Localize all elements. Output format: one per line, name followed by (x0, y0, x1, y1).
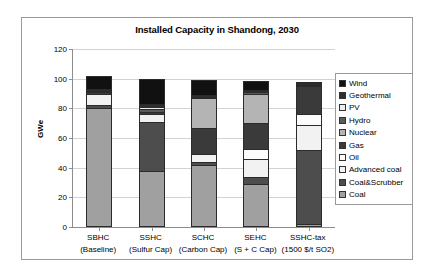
legend-swatch-icon (339, 92, 346, 99)
x-axis-label-line2: (S + C Cap) (229, 244, 281, 256)
x-tick-mark (309, 227, 310, 231)
bar-slot (283, 49, 335, 227)
x-axis-label-line2: (Baseline) (72, 244, 124, 256)
legend-label: Wind (349, 79, 367, 88)
x-axis-label-line1: SSHC (139, 233, 161, 242)
stacked-bar[interactable] (139, 79, 165, 227)
y-tick-label: 20 (58, 193, 67, 202)
y-tick-label: 100 (54, 74, 67, 83)
stacked-bar[interactable] (243, 81, 269, 227)
legend-swatch-icon (339, 104, 346, 111)
stacked-bar[interactable] (86, 76, 112, 227)
legend-label: Nuclear (349, 128, 377, 137)
bar-segment-nuclear[interactable] (243, 94, 269, 124)
bar-segment-coal[interactable] (191, 165, 217, 227)
bar-segment-wind[interactable] (86, 76, 112, 89)
bar-segment-advanced-coal[interactable] (139, 114, 165, 121)
legend-item[interactable]: Coal (339, 189, 410, 201)
y-tick-label: 120 (54, 45, 67, 54)
bar-segment-coal[interactable] (243, 184, 269, 227)
y-tick-label: 0 (63, 223, 67, 232)
bar-slot (73, 49, 125, 227)
bar-segment-advanced-coal[interactable] (243, 159, 269, 177)
y-tick-label: 40 (58, 163, 67, 172)
bar-segment-wind[interactable] (139, 79, 165, 104)
stacked-bar[interactable] (296, 82, 322, 227)
legend-swatch-icon (339, 80, 346, 87)
legend-item[interactable]: Nuclear (339, 127, 410, 139)
x-axis-label: SEHC(S + C Cap) (229, 232, 281, 255)
bar-segment-coal-scrubber[interactable] (243, 177, 269, 184)
bar-segment-advanced-coal[interactable] (86, 94, 112, 104)
chart-container: Installed Capacity in Shandong, 2030 GWe… (21, 17, 413, 260)
x-axis-label-line2: (1500 $/t SO2) (282, 244, 334, 256)
bar-segment-wind[interactable] (243, 81, 269, 90)
x-axis-label-line1: SSHC-tax (290, 233, 326, 242)
legend-label: Geothermal (349, 91, 391, 100)
x-axis-label: SCHC(Carbon Cap) (177, 232, 229, 255)
legend-item[interactable]: Oil (339, 151, 410, 163)
x-axis-label-line1: SCHC (192, 233, 215, 242)
legend-swatch-icon (339, 142, 346, 149)
x-axis-label-line2: (Carbon Cap) (177, 244, 229, 256)
bar-segment-gas[interactable] (243, 123, 269, 149)
bar-segment-oil[interactable] (296, 114, 322, 124)
legend-item[interactable]: Geothermal (339, 89, 410, 101)
legend-swatch-icon (339, 179, 346, 186)
x-tick-mark (99, 227, 100, 231)
legend-swatch-icon (339, 154, 346, 161)
legend-item[interactable]: Hydro (339, 114, 410, 126)
legend-swatch-icon (339, 191, 346, 198)
x-axis-label-line1: SEHC (244, 233, 266, 242)
bar-segment-gas[interactable] (296, 86, 322, 114)
bar-slot (125, 49, 177, 227)
y-axis-title: GWe (36, 120, 45, 138)
y-tick-label: 60 (58, 134, 67, 143)
x-tick-mark (204, 227, 205, 231)
x-tick-mark (256, 227, 257, 231)
legend-label: Advanced coal (349, 165, 401, 174)
x-axis-label-line2: (Sulfur Cap) (124, 244, 176, 256)
legend-item[interactable]: Gas (339, 139, 410, 151)
bar-segment-coal[interactable] (86, 108, 112, 227)
legend-label: Oil (349, 153, 359, 162)
bar-segment-oil[interactable] (243, 149, 269, 159)
x-axis-label: SSHC-tax(1500 $/t SO2) (282, 232, 334, 255)
legend-label: Hydro (349, 116, 370, 125)
legend-item[interactable]: PV (339, 102, 410, 114)
legend-swatch-icon (339, 129, 346, 136)
legend-label: Gas (349, 141, 364, 150)
y-tick-mark (69, 227, 73, 228)
legend-item[interactable]: Advanced coal (339, 164, 410, 176)
legend-label: Coal&Scrubber (349, 178, 403, 187)
x-axis-label: SBHC(Baseline) (72, 232, 124, 255)
legend-item[interactable]: Coal&Scrubber (339, 176, 410, 188)
bar-segment-wind[interactable] (191, 80, 217, 95)
bar-segment-coal[interactable] (139, 171, 165, 227)
bar-segment-coal-scrubber[interactable] (296, 150, 322, 224)
bar-slot (230, 49, 282, 227)
x-axis-label: SSHC(Sulfur Cap) (124, 232, 176, 255)
bar-segment-advanced-coal[interactable] (191, 154, 217, 163)
legend-label: Coal (349, 190, 365, 199)
bar-segment-coal-scrubber[interactable] (139, 122, 165, 171)
x-axis-label-line1: SBHC (87, 233, 109, 242)
bar-segment-nuclear[interactable] (191, 98, 217, 128)
stacked-bar[interactable] (191, 80, 217, 227)
x-tick-mark (152, 227, 153, 231)
legend: WindGeothermalPVHydroNuclearGasOilAdvanc… (335, 73, 413, 205)
bar-segment-advanced-coal[interactable] (296, 125, 322, 150)
legend-swatch-icon (339, 166, 346, 173)
y-tick-label: 80 (58, 104, 67, 113)
legend-label: PV (349, 103, 360, 112)
bar-slot (178, 49, 230, 227)
bar-segment-gas[interactable] (191, 128, 217, 153)
legend-item[interactable]: Wind (339, 77, 410, 89)
plot-area: 020406080100120 (72, 49, 335, 228)
chart-title: Installed Capacity in Shandong, 2030 (22, 24, 412, 35)
legend-swatch-icon (339, 117, 346, 124)
